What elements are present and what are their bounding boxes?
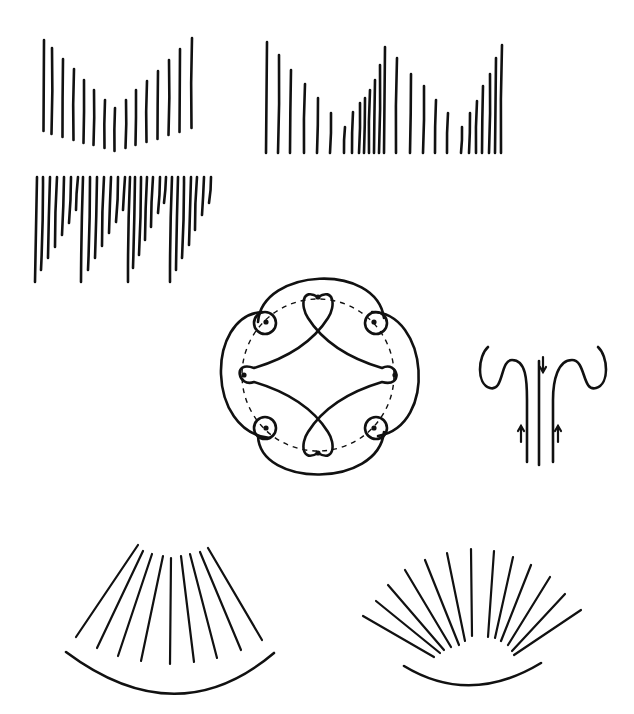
comb-stroke <box>278 55 279 153</box>
fan-over-arc-figure <box>66 545 274 694</box>
loop-center-dot <box>263 319 268 324</box>
hanging-stroke <box>133 177 135 268</box>
comb-stroke <box>169 60 170 135</box>
loop-center-dot <box>315 450 320 455</box>
sunburst-ray <box>471 549 472 636</box>
arrow-down-icon <box>540 357 546 372</box>
sunburst-ray <box>501 565 531 641</box>
line-drawing-plate <box>0 0 634 714</box>
comb-stroke <box>461 127 462 153</box>
comb-stroke <box>304 84 305 153</box>
hanging-stroke <box>182 177 184 258</box>
hanging-stroke <box>170 177 172 282</box>
fan-ray <box>190 554 217 658</box>
loop-center-dots <box>241 294 397 455</box>
hanging-sawtooth-figure <box>35 177 211 282</box>
fan-ray <box>170 558 171 664</box>
comb-stroke <box>495 58 496 153</box>
hanging-stroke <box>81 177 83 282</box>
v-shaped-comb-figure <box>44 38 193 151</box>
comb-stroke <box>73 69 74 140</box>
hanging-stroke <box>41 177 43 270</box>
comb-stroke <box>126 100 127 148</box>
comb-stroke <box>180 49 181 132</box>
comb-stroke <box>352 112 353 153</box>
hanging-stroke <box>151 177 153 227</box>
hanging-stroke <box>158 177 160 213</box>
hanging-stroke <box>123 177 125 210</box>
comb-stroke <box>146 81 147 142</box>
hanging-stroke <box>55 177 57 247</box>
comb-stroke <box>191 38 192 128</box>
comb-stroke <box>290 70 291 153</box>
sunburst-ray <box>488 551 494 637</box>
outer-lobe-top <box>258 279 384 322</box>
hanging-stroke <box>48 177 50 258</box>
comb-stroke <box>410 74 411 153</box>
hanging-stroke <box>95 177 97 258</box>
comb-stroke <box>359 103 360 153</box>
right-curl-streamline <box>553 347 606 462</box>
sunburst-over-arc-figure <box>363 549 581 685</box>
hanging-stroke <box>128 177 130 282</box>
comb-stroke <box>374 80 375 153</box>
loop-center-dot <box>241 372 246 377</box>
comb-stroke <box>476 101 477 153</box>
arrow-up-icon <box>555 426 561 442</box>
hanging-stroke <box>76 177 78 210</box>
sunburst-ray <box>514 610 581 655</box>
comb-stroke <box>447 113 448 153</box>
loop-center-dot <box>315 294 320 299</box>
comb-stroke <box>344 127 345 153</box>
comb-stroke <box>482 86 483 153</box>
left-curl-streamline <box>480 347 527 462</box>
comb-stroke <box>396 58 397 153</box>
inner-crossing-curve <box>240 294 397 456</box>
sunburst-ray <box>495 557 513 638</box>
comb-stroke <box>469 113 470 153</box>
hanging-stroke <box>202 177 204 215</box>
double-sawtooth-comb-figure <box>266 42 502 153</box>
hanging-stroke <box>88 177 90 270</box>
hanging-stroke <box>62 177 64 235</box>
hanging-stroke <box>209 177 211 203</box>
hanging-stroke <box>35 177 37 282</box>
comb-stroke <box>62 59 63 137</box>
comb-stroke <box>114 108 115 151</box>
hanging-stroke <box>116 177 118 222</box>
sunburst-ray <box>512 594 565 651</box>
comb-stroke <box>489 74 490 153</box>
hanging-stroke <box>109 177 111 233</box>
comb-stroke <box>330 113 331 153</box>
comb-stroke <box>435 100 436 153</box>
fan-ray <box>181 556 194 662</box>
loop-center-dot <box>263 425 268 430</box>
comb-stroke <box>104 100 105 148</box>
comb-stroke <box>369 90 370 153</box>
comb-stroke <box>136 90 137 145</box>
comb-stroke <box>501 45 502 153</box>
comb-stroke <box>52 48 53 134</box>
loop-center-dot <box>392 372 397 377</box>
sunburst-base-arc <box>404 663 541 685</box>
knotted-loop-circle-figure <box>221 279 419 475</box>
loop-center-dot <box>371 319 376 324</box>
hanging-stroke <box>176 177 178 270</box>
sunburst-ray <box>447 553 465 641</box>
comb-stroke <box>44 40 45 131</box>
hanging-stroke <box>102 177 104 246</box>
comb-stroke <box>384 47 385 153</box>
hanging-stroke <box>189 177 191 245</box>
sunburst-ray <box>363 616 434 657</box>
arrow-up-icon <box>518 426 524 442</box>
comb-stroke <box>423 86 424 153</box>
loop-center-dot <box>371 425 376 430</box>
comb-stroke <box>266 42 267 153</box>
comb-stroke <box>317 98 318 153</box>
fan-ray <box>200 552 241 650</box>
comb-stroke <box>94 90 95 145</box>
fan-ray <box>208 548 262 640</box>
fan-ray <box>141 556 163 661</box>
hanging-stroke <box>69 177 71 223</box>
hanging-stroke <box>145 177 147 240</box>
